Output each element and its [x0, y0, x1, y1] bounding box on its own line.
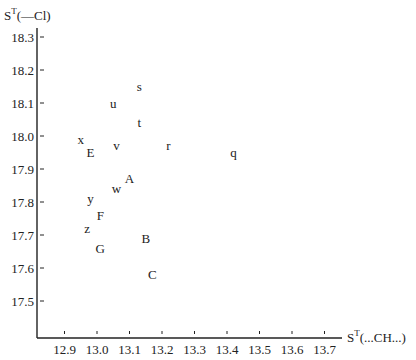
data-point-G: G — [96, 241, 105, 256]
data-point-B: B — [141, 231, 150, 246]
svg-text:ST(—Cl): ST(—Cl) — [4, 6, 51, 23]
data-point-C: C — [148, 267, 157, 282]
x-tick-label: 13.5 — [248, 342, 271, 357]
x-tick-label: 13.6 — [281, 342, 304, 357]
y-axis-title: ST(—Cl) — [4, 6, 51, 23]
y-tick-label: 17.9 — [11, 162, 34, 177]
x-tick-label: 13.0 — [86, 342, 109, 357]
x-tick-label: 13.2 — [151, 342, 174, 357]
x-axis-title: ST(...CH...) — [347, 328, 406, 345]
data-point-z: z — [84, 221, 90, 236]
data-points: sutxEvrqAwyFzGBC — [78, 79, 238, 282]
x-tick-label: 13.7 — [313, 342, 336, 357]
x-tick-label: 12.9 — [53, 342, 76, 357]
data-point-x: x — [78, 132, 85, 147]
data-point-r: r — [166, 138, 171, 153]
data-point-q: q — [230, 145, 237, 160]
y-tick-label: 18.3 — [11, 30, 34, 45]
y-tick-label: 17.5 — [11, 294, 34, 309]
scatter-chart: ST(—Cl) 18.318.218.118.017.917.817.717.6… — [0, 0, 416, 360]
data-point-t: t — [137, 115, 141, 130]
svg-text:ST(...CH...): ST(...CH...) — [347, 328, 406, 345]
y-tick-label: 18.0 — [11, 129, 34, 144]
x-ticks: 12.913.013.113.213.313.413.513.613.7 — [53, 331, 336, 357]
x-tick-label: 13.3 — [183, 342, 206, 357]
y-tick-label: 17.8 — [11, 195, 34, 210]
y-tick-label: 17.7 — [11, 228, 34, 243]
data-point-A: A — [125, 171, 135, 186]
y-tick-label: 17.6 — [11, 261, 34, 276]
data-point-w: w — [112, 181, 122, 196]
y-ticks: 18.318.218.118.017.917.817.717.617.5 — [11, 30, 44, 309]
data-point-F: F — [97, 208, 104, 223]
data-point-v: v — [113, 138, 120, 153]
y-tick-label: 18.1 — [11, 96, 34, 111]
y-tick-label: 18.2 — [11, 63, 34, 78]
x-tick-label: 13.1 — [118, 342, 141, 357]
data-point-s: s — [137, 79, 142, 94]
data-point-u: u — [110, 96, 117, 111]
x-tick-label: 13.4 — [216, 342, 239, 357]
data-point-y: y — [87, 191, 94, 206]
data-point-E: E — [87, 145, 95, 160]
